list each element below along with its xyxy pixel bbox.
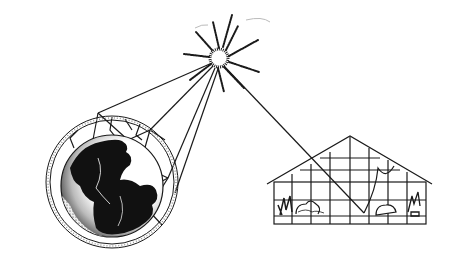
sun-icon: [184, 15, 270, 92]
earth-icon: [61, 135, 163, 237]
greenhouse-icon: [267, 136, 432, 224]
diagram-canvas: Greenhouse effect: sunlight reaching Ear…: [0, 0, 454, 265]
